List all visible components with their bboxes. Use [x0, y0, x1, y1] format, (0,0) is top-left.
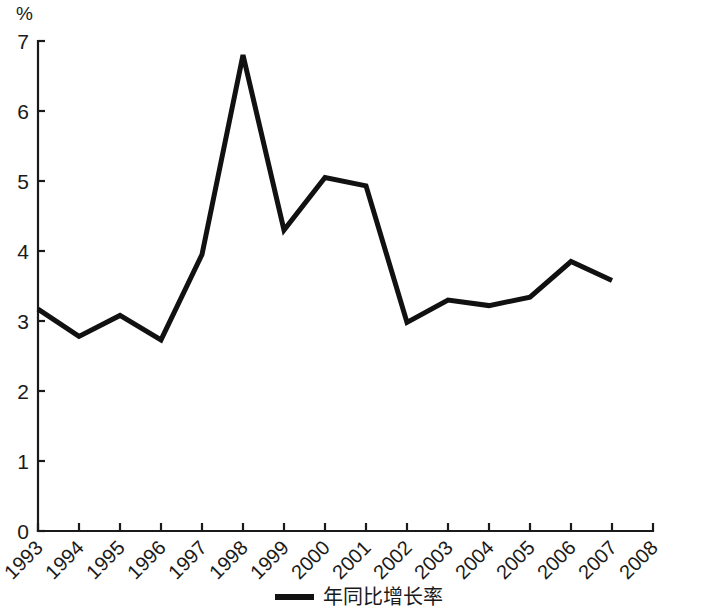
y-axis-tick-label: 4: [17, 240, 29, 263]
y-axis-tick-label: 6: [17, 100, 29, 123]
y-axis-tick-label: 3: [17, 310, 29, 333]
x-axis-tick-label: 1996: [123, 536, 170, 583]
x-axis-tick-label: 1998: [205, 536, 252, 583]
x-axis-tick-label: 1993: [0, 536, 47, 583]
x-axis-tick-label: 2006: [533, 536, 580, 583]
x-axis-tick-label: 2008: [615, 536, 662, 583]
y-axis-tick-label: 5: [17, 170, 29, 193]
x-axis-tick-label: 2001: [328, 536, 375, 583]
data-series-line: [38, 55, 612, 340]
x-axis-tick-label: 2000: [287, 536, 334, 583]
x-axis-tick-label: 2002: [369, 536, 416, 583]
x-axis-tick-label: 2007: [574, 536, 621, 583]
chart-container: %012345671993199419951996199719981999200…: [0, 0, 717, 613]
x-axis-tick-label: 2005: [492, 536, 539, 583]
y-axis-tick-label: 7: [17, 30, 29, 53]
x-axis-tick-label: 1994: [41, 536, 88, 583]
x-axis-tick-label: 2004: [451, 536, 498, 583]
x-axis-tick-label: 2003: [410, 536, 457, 583]
x-axis-tick-label: 1997: [164, 536, 211, 583]
legend-label: 年同比增长率: [323, 585, 443, 609]
x-axis-tick-label: 1995: [82, 536, 129, 583]
line-chart: %012345671993199419951996199719981999200…: [0, 0, 717, 613]
y-axis-tick-label: 1: [17, 450, 29, 473]
x-axis-tick-label: 1999: [246, 536, 293, 583]
y-axis-tick-label: 2: [17, 380, 29, 403]
y-axis-unit-label: %: [16, 3, 33, 24]
